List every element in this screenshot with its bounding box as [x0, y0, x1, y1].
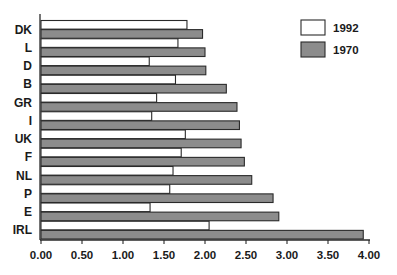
bar-i-1970: [41, 121, 239, 130]
bar-chart: DKLDBGRIUKFNLPEIRL 0.000.501.001.502.002…: [0, 0, 397, 275]
bar-f-1992: [41, 148, 181, 157]
bar-gr-1970: [41, 103, 237, 112]
bar-uk-1970: [41, 139, 241, 148]
x-tick-label: 0.50: [71, 249, 93, 261]
bar-nl-1970: [41, 176, 252, 185]
legend: 19921970: [301, 20, 359, 57]
legend-swatch-1970: [301, 42, 325, 57]
legend-swatch-1992: [301, 20, 325, 35]
bar-l-1970: [41, 48, 205, 57]
x-tick-label: 3.50: [317, 249, 339, 261]
bar-p-1992: [41, 185, 170, 194]
category-label: F: [25, 150, 32, 164]
bar-dk-1970: [41, 30, 203, 39]
bar-e-1970: [41, 212, 279, 221]
x-tick-label: 1.50: [153, 249, 175, 261]
bar-irl-1992: [41, 221, 209, 230]
x-tick-label: 4.00: [358, 249, 380, 261]
category-label: IRL: [13, 223, 32, 237]
bar-gr-1992: [41, 94, 157, 103]
bar-uk-1992: [41, 130, 185, 139]
category-label: I: [29, 114, 32, 128]
bar-b-1992: [41, 75, 175, 84]
category-label: DK: [15, 23, 33, 37]
category-label: UK: [15, 132, 33, 146]
category-label: E: [24, 205, 32, 219]
bar-p-1970: [41, 194, 273, 203]
bar-f-1970: [41, 157, 244, 166]
bar-dk-1992: [41, 21, 187, 30]
category-label: NL: [16, 169, 32, 183]
bar-b-1970: [41, 84, 226, 93]
bar-nl-1992: [41, 167, 173, 176]
bar-l-1992: [41, 39, 178, 48]
x-tick-label: 3.00: [276, 249, 298, 261]
bar-i-1992: [41, 112, 152, 121]
bar-irl-1970: [41, 230, 363, 239]
bar-d-1970: [41, 66, 206, 75]
x-tick-label: 2.00: [194, 249, 216, 261]
legend-label-1992: 1992: [333, 22, 359, 34]
x-tick-label: 2.50: [235, 249, 257, 261]
legend-label-1970: 1970: [333, 44, 359, 56]
category-label: B: [23, 77, 32, 91]
category-label: P: [24, 187, 32, 201]
category-label: GR: [14, 96, 32, 110]
bar-d-1992: [41, 57, 149, 66]
category-label: L: [25, 41, 32, 55]
x-tick-label: 0.00: [30, 249, 52, 261]
x-tick-label: 1.00: [112, 249, 134, 261]
category-labels: DKLDBGRIUKFNLPEIRL: [13, 23, 33, 238]
bar-e-1992: [41, 203, 150, 212]
category-label: D: [23, 59, 32, 73]
